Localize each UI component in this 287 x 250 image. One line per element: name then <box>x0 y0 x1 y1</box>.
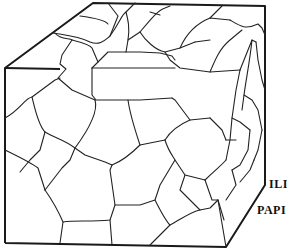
figure-label-1: ILI <box>269 177 287 192</box>
raised-grain-block <box>92 52 175 100</box>
cube-outline <box>5 3 265 247</box>
figure-label-2: PAPI <box>257 203 286 218</box>
polycrystal-cube-drawing <box>0 0 287 250</box>
right-face-grains <box>226 40 265 200</box>
front-face-grains <box>5 78 226 247</box>
top-face-grains <box>53 3 265 100</box>
